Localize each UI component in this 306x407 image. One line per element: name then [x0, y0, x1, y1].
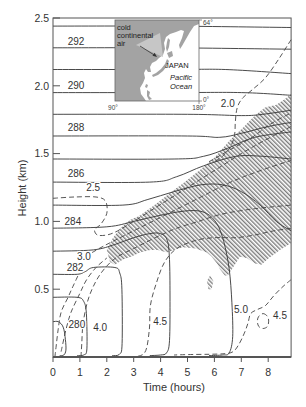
- figure: 2922902882862842822802.02.53.04.04.55.04…: [0, 0, 306, 407]
- solid-contour-label: 280: [69, 319, 86, 330]
- hatched-regions: [107, 94, 291, 289]
- solid-contour-label: 284: [65, 216, 82, 227]
- inset-map: cold continental air JAPAN Pacific Ocean…: [108, 19, 213, 111]
- x-tick-label: 2: [104, 366, 110, 378]
- solid-contour-line: [53, 321, 66, 355]
- y-tick-label: 2.5: [34, 12, 49, 24]
- inset-lat-top-label: 64°: [203, 19, 213, 26]
- x-tick-label: 7: [238, 366, 244, 378]
- solid-contour-label: 288: [68, 122, 85, 133]
- dashed-contour-label: 4.5: [153, 316, 167, 327]
- solid-contour-label: 282: [67, 262, 84, 273]
- solid-contour-line: [53, 110, 291, 115]
- dashed-contour-label: 2.5: [86, 182, 100, 193]
- dashed-contour-label: 4.0: [93, 322, 107, 333]
- y-axis-title: Height (km): [16, 160, 28, 217]
- x-tick-label: 4: [158, 366, 164, 378]
- inset-lon-left-label: 90°: [108, 104, 118, 111]
- solid-contour-label: 292: [68, 36, 85, 47]
- dashed-contour-label: 4.5: [273, 310, 287, 321]
- x-tick-label: 6: [211, 366, 217, 378]
- dashed-contour-label: 2.0: [221, 98, 235, 109]
- inset-lat-bottom-label: 0°: [203, 96, 210, 103]
- x-axis-title: Time (hours): [143, 381, 205, 393]
- inset-label-japan: JAPAN: [165, 61, 189, 70]
- x-tick-label: 5: [185, 366, 191, 378]
- x-tick-label: 1: [77, 366, 83, 378]
- dashed-contour-line: [55, 276, 78, 357]
- inset-label-air: air: [117, 39, 126, 48]
- y-tick-label: 0.5: [34, 283, 49, 295]
- solid-contour-label: 290: [68, 80, 85, 91]
- inset-label-ocean: Ocean: [170, 82, 192, 91]
- dashed-contour-line: [257, 314, 268, 329]
- y-tick-label: 1.0: [34, 215, 49, 227]
- dashed-contour-label: 5.0: [234, 304, 248, 315]
- inset-label-pacific: Pacific: [170, 73, 192, 82]
- y-tick-label: 1.5: [34, 147, 49, 159]
- x-tick-label: 0: [50, 366, 56, 378]
- inset-lon-right-label: 180°: [192, 104, 206, 111]
- solid-contour-label: 286: [68, 168, 85, 179]
- hatched-region: [207, 276, 213, 290]
- y-tick-label: 2.0: [34, 80, 49, 92]
- x-tick-label: 3: [131, 366, 137, 378]
- dashed-contour-label: 3.0: [77, 251, 91, 262]
- x-tick-label: 8: [265, 366, 271, 378]
